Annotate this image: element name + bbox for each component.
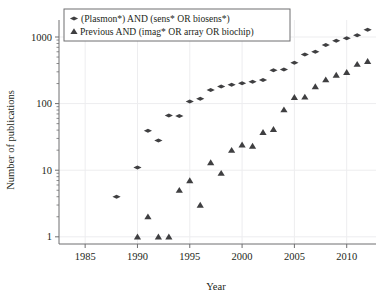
y-tick-label: 1 (47, 231, 52, 242)
y-tick-label: 10 (42, 165, 53, 176)
chart-legend[interactable]: (Plasmon*) AND (sens* OR biosens*) Previ… (64, 9, 290, 41)
legend-label-plasmon-imaging: Previous AND (imag* OR array OR biochip) (80, 26, 254, 38)
x-axis-title: Year (206, 281, 226, 292)
x-tick-label: 1985 (75, 251, 96, 262)
x-tick-label: 1995 (179, 251, 200, 262)
x-tick-label: 2000 (232, 251, 253, 262)
legend-label-plasmon-sensing: (Plasmon*) AND (sens* OR biosens*) (81, 13, 230, 25)
x-tick-label: 2010 (336, 251, 357, 262)
x-tick-label: 1990 (127, 251, 148, 262)
publications-scatter-chart: 1101001000 198519901995200020052010 Numb… (0, 0, 382, 296)
y-axis-title: Number of publications (5, 90, 16, 190)
legend-item-plasmon-imaging[interactable]: Previous AND (imag* OR array OR biochip) (70, 26, 253, 38)
y-tick-label: 100 (36, 98, 52, 109)
y-tick-label: 1000 (31, 32, 52, 43)
x-tick-label: 2005 (284, 251, 305, 262)
legend-item-plasmon-sensing[interactable]: (Plasmon*) AND (sens* OR biosens*) (70, 13, 230, 25)
